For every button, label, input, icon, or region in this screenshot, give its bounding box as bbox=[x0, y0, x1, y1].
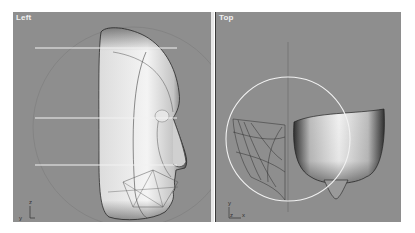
head-mesh-top[interactable] bbox=[294, 109, 385, 199]
top-view-scene: y z x bbox=[216, 12, 401, 222]
axis-gizmo-left: z y bbox=[19, 199, 35, 221]
svg-text:z: z bbox=[29, 199, 32, 205]
viewport-divider[interactable] bbox=[211, 12, 214, 222]
svg-text:y: y bbox=[228, 200, 231, 206]
axis-gizmo-top: y z x bbox=[228, 200, 245, 218]
svg-text:x: x bbox=[242, 212, 245, 218]
viewport-top[interactable]: Top bbox=[215, 12, 401, 222]
viewport-left[interactable]: Left bbox=[13, 12, 211, 222]
left-view-scene: z y bbox=[13, 12, 211, 222]
head-mesh-profile[interactable] bbox=[99, 28, 187, 220]
svg-text:z: z bbox=[230, 212, 233, 218]
svg-text:y: y bbox=[19, 215, 22, 221]
wireframe-mesh[interactable] bbox=[233, 119, 285, 200]
